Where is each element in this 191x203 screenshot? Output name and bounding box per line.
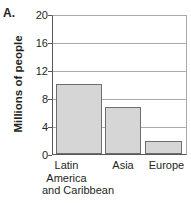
- y-tick-label-16: 16: [24, 38, 48, 49]
- gridline-16: [53, 43, 186, 44]
- y-tick-label-4: 4: [24, 122, 48, 133]
- x-category-label-europe: Europe: [142, 159, 191, 172]
- x-category-line-1: Europe: [149, 159, 184, 171]
- panel-label: A.: [3, 6, 15, 20]
- y-tick-mark-0: [48, 155, 52, 156]
- x-category-line-3: and Caribbean: [28, 184, 128, 197]
- y-tick-label-12: 12: [24, 66, 48, 77]
- x-category-line-1: Latin: [55, 159, 79, 171]
- x-category-label-asia: Asia: [100, 159, 146, 172]
- bar-chart-figure: A. Millions of people 20 16 12 8 4 0 Lat…: [0, 0, 191, 203]
- y-axis-title: Millions of people: [12, 29, 24, 139]
- y-tick-label-8: 8: [24, 94, 48, 105]
- bar-asia: [105, 107, 141, 154]
- bar-latin-america: [56, 84, 102, 154]
- plot-area: [52, 15, 187, 155]
- x-category-line-1: Asia: [112, 159, 133, 171]
- bar-europe: [145, 141, 182, 154]
- x-category-label-latin-america: Latin America and Caribbean: [34, 159, 99, 184]
- y-tick-label-20: 20: [24, 10, 48, 21]
- x-category-line-2: America: [34, 172, 99, 185]
- gridline-12: [53, 71, 186, 72]
